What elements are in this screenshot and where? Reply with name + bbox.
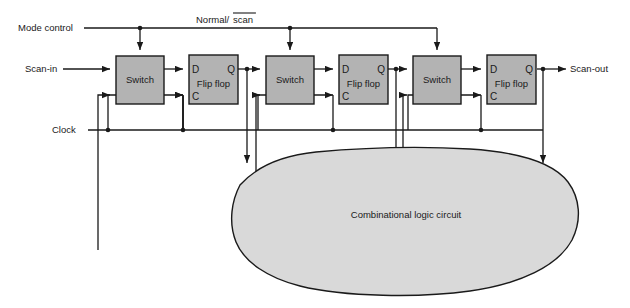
junction-clock-2 [331,128,336,133]
diagram-canvas: Combinational logic circuit Switch D Q C… [0,0,630,308]
junction-mode-1 [138,26,143,31]
scan-path-diagram: Combinational logic circuit Switch D Q C… [0,0,630,308]
block-switch-1[interactable]: Switch [116,56,164,104]
switch-2-label: Switch [276,74,304,85]
flipflop-2-label: Flip flop [347,78,380,89]
normal-scan-label: Normal/ [196,14,230,25]
flipflop-2-pin-d: D [342,64,349,75]
block-flipflop-1[interactable]: D Q C Flip flop [189,55,238,104]
block-flipflop-3[interactable]: D Q C Flip flop [487,55,536,104]
junction-dots [106,26,546,133]
junction-ff1q [245,67,250,72]
flipflop-1-pin-d: D [192,64,199,75]
flipflop-2-pin-q: Q [377,64,385,75]
flipflop-1-pin-q: Q [227,64,235,75]
junction-clock-1 [181,128,186,133]
flipflop-3-pin-d: D [490,64,497,75]
mode-control-label: Mode control [18,22,73,33]
block-flipflop-2[interactable]: D Q C Flip flop [339,55,388,104]
block-switch-2[interactable]: Switch [266,56,314,104]
normal-scan-overline-text: scan [233,14,253,25]
combinational-logic-cloud [232,148,579,296]
scan-out-label: Scan-out [570,63,608,74]
scan-in-label: Scan-in [25,63,57,74]
flipflop-3-pin-c: C [490,91,497,102]
switch-3-label: Switch [423,74,451,85]
combinational-logic-label: Combinational logic circuit [351,209,462,220]
flipflop-1-label: Flip flop [197,78,230,89]
flipflop-2-pin-c: C [342,91,349,102]
flipflop-1-pin-c: C [192,91,199,102]
junction-ff3q [541,67,546,72]
flipflop-3-label: Flip flop [495,78,528,89]
junction-ff2q [394,67,399,72]
junction-clock-3 [479,128,484,133]
clock-label: Clock [52,124,76,135]
block-switch-3[interactable]: Switch [413,56,461,104]
switch-1-label: Switch [126,74,154,85]
junction-mode-2 [288,26,293,31]
junction-clock-0 [106,128,111,133]
normal-scan-label-group: Normal/ scan [196,13,256,25]
flipflop-3-pin-q: Q [525,64,533,75]
